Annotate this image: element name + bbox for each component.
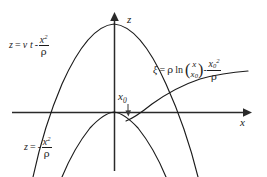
eq-top-lhs: z bbox=[9, 39, 13, 50]
equation-upper-parabola: z=v t-x2ρ bbox=[9, 34, 49, 58]
eq-top-fraction: x2ρ bbox=[39, 34, 49, 58]
eq-bot-fraction: x2ρ bbox=[42, 136, 52, 160]
eq-top-num-exponent: 2 bbox=[44, 33, 47, 40]
eq-bot-equals: = bbox=[30, 141, 36, 152]
x0-label-subscript: 0 bbox=[123, 96, 127, 105]
eq-top-term1: v t bbox=[23, 39, 33, 50]
physics-figure: z x x0 z=v t-x2ρ z=-x2ρ ξ=ρln(xx0)-x02ρ bbox=[0, 0, 267, 177]
eq-top-numerator: x2 bbox=[39, 34, 49, 46]
curve-upper-parabola bbox=[33, 24, 198, 177]
eq-xi-lhs: ξ bbox=[153, 64, 157, 75]
eq-bot-minus: - bbox=[38, 141, 41, 152]
eq-bot-lhs: z bbox=[24, 141, 28, 152]
eq-bot-num-exponent: 2 bbox=[47, 135, 50, 142]
eq-xi-denominator: ρ bbox=[207, 70, 220, 83]
x-axis bbox=[12, 108, 252, 117]
eq-top-minus: - bbox=[35, 39, 38, 50]
x0-marker-label: x0 bbox=[118, 91, 127, 105]
eq-xi-inner-denominator: x0 bbox=[191, 70, 198, 80]
eq-top-denominator: ρ bbox=[39, 45, 49, 58]
eq-xi-ln: ln bbox=[175, 64, 183, 75]
eq-xi-paren-close: ) bbox=[198, 61, 203, 78]
eq-xi-rho: ρ bbox=[167, 64, 173, 75]
equation-log-curve: ξ=ρln(xx0)-x02ρ bbox=[153, 58, 221, 83]
eq-bot-denominator: ρ bbox=[42, 147, 52, 160]
eq-bot-numerator: x2 bbox=[42, 136, 52, 148]
eq-top-equals: = bbox=[15, 39, 21, 50]
x0-tick-pointer bbox=[125, 104, 131, 116]
equation-lower-parabola: z=-x2ρ bbox=[24, 136, 52, 160]
z-axis-label: z bbox=[127, 14, 131, 25]
eq-xi-num-exponent: 2 bbox=[216, 57, 219, 64]
z-axis-arrowhead bbox=[110, 12, 119, 21]
eq-xi-numerator: x02 bbox=[207, 58, 220, 70]
x0-tick-arrowhead bbox=[125, 110, 131, 116]
eq-xi-equals: = bbox=[159, 64, 165, 75]
x-axis-label: x bbox=[240, 117, 245, 128]
eq-xi-minus: - bbox=[203, 64, 206, 75]
eq-xi-inner-fraction: xx0 bbox=[191, 60, 198, 79]
eq-xi-fraction: x02ρ bbox=[207, 58, 220, 83]
